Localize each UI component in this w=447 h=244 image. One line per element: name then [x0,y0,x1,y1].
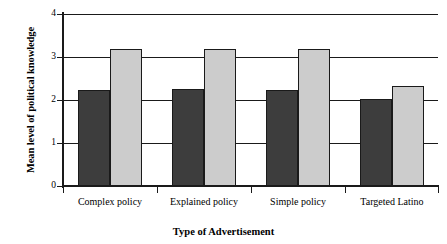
y-tick-label-3: 3 [38,52,56,62]
bar-targeted-latino-light [392,86,424,186]
plot-area [63,14,438,186]
x-category-label-explained-policy: Explained policy [157,196,251,208]
y-axis-title: Mean level of political knowledge [24,0,38,200]
bar-complex-policy-light [110,49,142,186]
bar-complex-policy-dark [78,90,110,186]
bar-simple-policy-light [298,49,330,186]
bar-explained-policy-light [204,49,236,186]
bar-simple-policy-dark [266,90,298,186]
x-tick-3 [345,186,346,193]
x-tick-4 [438,186,439,193]
y-tick-label-0: 0 [38,181,56,191]
x-category-label-complex-policy: Complex policy [63,196,157,208]
gridline-4 [63,14,438,15]
x-tick-2 [251,186,252,193]
bar-explained-policy-dark [172,89,204,186]
bar-chart-figure: Mean level of political knowledge 4 3 2 … [0,0,447,244]
x-axis-title: Type of Advertisement [0,226,447,238]
x-tick-1 [157,186,158,193]
y-tick-label-2: 2 [38,95,56,105]
x-category-label-simple-policy: Simple policy [251,196,345,208]
bar-targeted-latino-dark [360,99,392,186]
x-category-label-targeted-latino: Targeted Latino [345,196,439,208]
y-tick-label-1: 1 [38,138,56,148]
x-tick-0 [63,186,64,193]
y-tick-label-4: 4 [38,9,56,19]
